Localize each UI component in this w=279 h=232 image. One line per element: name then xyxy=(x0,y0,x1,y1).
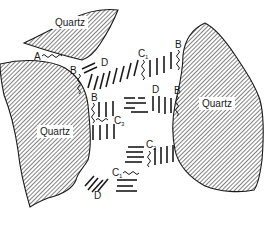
contact-C1-top: C 1 xyxy=(138,48,149,80)
bars-horizontal-bottom xyxy=(116,180,137,191)
label-B1: B xyxy=(70,65,77,76)
label-B2: B xyxy=(91,92,98,103)
bars-fan-top xyxy=(88,60,138,90)
bars-horizontal-center xyxy=(124,98,148,112)
bars-vertical-top-right xyxy=(150,52,171,77)
quartz-label-top: Quartz xyxy=(55,17,85,28)
quartz-label-right: Quartz xyxy=(202,98,232,109)
contact-B3: B xyxy=(175,39,182,70)
label-D2: D xyxy=(152,84,159,95)
bars-D1 xyxy=(82,63,97,73)
bars-vertical-right-mid xyxy=(153,96,171,114)
label-B3: B xyxy=(175,39,182,50)
quartz-label-left: Quartz xyxy=(40,126,70,137)
svg-text:1: 1 xyxy=(145,54,149,60)
bars-vertical-C2 xyxy=(155,145,173,165)
quartz-grain-left: Quartz xyxy=(0,61,90,207)
bars-horizontal-lower xyxy=(125,147,144,162)
quartz-grain-right: Quartz xyxy=(173,23,264,192)
label-B4: B xyxy=(174,85,181,96)
bars-vertical-left-lower xyxy=(93,124,114,140)
bars-vertical-left xyxy=(99,101,113,117)
label-D3: D xyxy=(94,190,101,201)
quartz-grain-diagram: Quartz Quartz Quartz A B B B B D D D C 1 xyxy=(0,0,279,232)
svg-text:1: 1 xyxy=(119,173,123,179)
contact-C1-bottom: C 1 xyxy=(112,167,139,179)
label-A: A xyxy=(34,51,41,62)
svg-text:3: 3 xyxy=(121,121,125,127)
label-D1: D xyxy=(101,57,108,68)
